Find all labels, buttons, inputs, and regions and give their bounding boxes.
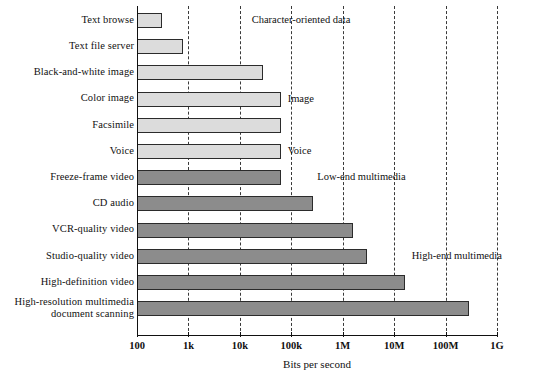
bar [137,249,367,264]
bar [137,92,281,107]
x-axis-title: Bits per second [137,358,497,370]
x-tick-label: 1G [490,340,503,351]
bar [137,223,353,238]
bar [137,301,469,316]
bar [137,118,281,133]
bar [137,170,281,185]
category-label: Voice [2,145,134,157]
category-label: VCR-quality video [2,223,134,235]
chart-annotation: Image [288,93,314,104]
gridline [446,6,447,336]
category-label: High-resolution multimedia document scan… [2,296,134,319]
category-label: Text browse [2,14,134,26]
plot-area: Character-oriented dataImageVoiceLow-end… [137,6,497,336]
category-label: Freeze-frame video [2,171,134,183]
category-label: Black-and-white image [2,66,134,78]
x-tick [497,332,498,337]
category-label: Text file server [2,40,134,52]
x-tick [188,332,189,337]
chart-annotation: High-end multimedia [412,250,502,261]
x-tick-label: 100k [280,340,302,351]
x-tick [291,332,292,337]
category-axis-labels: Text browseText file serverBlack-and-whi… [0,0,134,340]
bar [137,196,313,211]
y-axis-line [137,6,138,336]
x-tick [446,332,447,337]
category-label: Facsimile [2,119,134,131]
x-tick [240,332,241,337]
bar [137,39,183,54]
chart-annotation: Voice [288,145,312,156]
x-tick [394,332,395,337]
x-tick-label: 10M [384,340,404,351]
category-label: Color image [2,92,134,104]
gridline [497,6,498,336]
x-tick-label: 10k [232,340,248,351]
bar [137,144,281,159]
category-label: Studio-quality video [2,250,134,262]
chart-annotation: Character-oriented data [252,14,351,25]
x-tick-label: 100 [129,340,145,351]
x-tick-label: 100M [433,340,459,351]
category-label: High-definition video [2,276,134,288]
x-tick-label: 1k [183,340,194,351]
x-tick-label: 1M [335,340,350,351]
bar-chart: Text browseText file serverBlack-and-whi… [0,0,538,386]
x-tick [343,332,344,337]
x-tick [137,332,138,337]
category-label: CD audio [2,197,134,209]
chart-annotation: Low-end multimedia [317,171,405,182]
bar [137,275,405,290]
x-axis-line [137,335,498,336]
bar [137,65,263,80]
bar [137,13,162,28]
